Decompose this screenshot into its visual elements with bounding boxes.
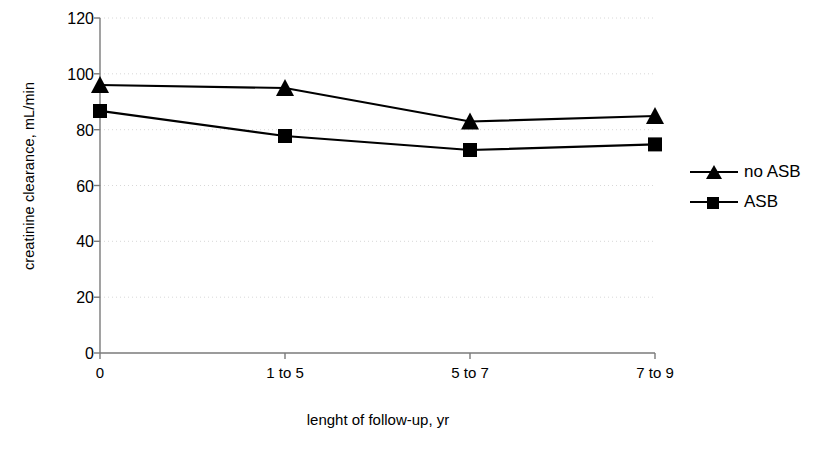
x-tick-label: 0 [96, 364, 104, 381]
legend-label: ASB [738, 192, 778, 212]
legend-item-asb: ASB [690, 187, 815, 217]
data-point-marker [463, 143, 477, 157]
plot-area [0, 0, 820, 454]
data-point-marker [93, 104, 107, 118]
legend-label: no ASB [738, 162, 801, 182]
x-axis-title: lenght of follow-up, yr [100, 411, 656, 428]
creatinine-clearance-line-chart: creatinine clearance, mL/min 120 100 80 … [0, 0, 820, 454]
x-tick-label: 5 to 7 [451, 364, 489, 381]
gridlines [100, 18, 655, 297]
y-axis-ticks [94, 18, 100, 353]
triangle-marker-icon [690, 163, 738, 181]
chart-legend: no ASB ASB [690, 157, 815, 217]
series-asb [93, 104, 662, 157]
square-marker-icon [690, 193, 738, 211]
x-axis-ticks [100, 353, 655, 359]
x-tick-label: 7 to 9 [636, 364, 674, 381]
data-point-marker [648, 137, 662, 151]
data-point-marker [278, 129, 292, 143]
x-tick-label: 1 to 5 [266, 364, 304, 381]
legend-item-no-asb: no ASB [690, 157, 815, 187]
